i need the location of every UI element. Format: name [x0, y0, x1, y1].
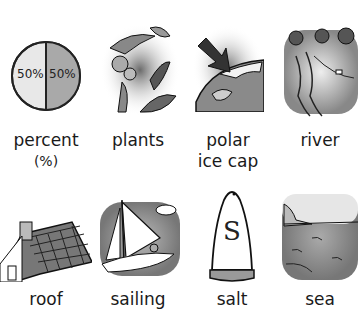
card-label: sea — [270, 289, 358, 310]
salt-symbol: S — [223, 216, 241, 246]
sailboat-icon — [98, 198, 180, 280]
card-label: polar — [178, 130, 278, 151]
pie-left-value: 50% — [17, 67, 44, 81]
roof-icon — [0, 218, 92, 282]
sea-icon — [282, 192, 358, 282]
pie-chart-icon: 50% 50% — [8, 38, 84, 114]
card-label: percent — [0, 130, 96, 151]
card-label: river — [270, 130, 358, 151]
river-icon — [284, 26, 358, 118]
card-label: plants — [88, 130, 188, 151]
card-sublabel: (%) — [0, 151, 96, 172]
card-label: salt — [182, 289, 282, 310]
polar-ice-cap-icon — [192, 22, 264, 112]
plants-icon — [100, 20, 180, 116]
salt-shaker-icon: S — [206, 186, 258, 286]
card-label: roof — [0, 289, 96, 310]
card-label: sailing — [88, 289, 188, 310]
pie-right-value: 50% — [49, 67, 76, 81]
card-label-line2: ice cap — [178, 151, 278, 172]
